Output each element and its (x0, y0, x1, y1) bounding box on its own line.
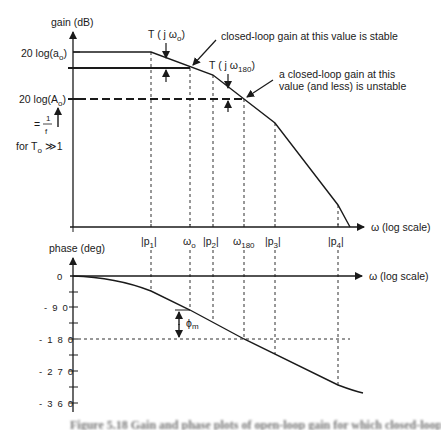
phase-tick-minus-270: - 2 7 0 (39, 366, 74, 377)
fraction-denominator: f (45, 127, 48, 136)
high-loop-gain-condition: for To ≫1 (16, 140, 63, 155)
unstable-note-line2: value (and less) is unstable (279, 80, 406, 92)
unstable-note-line1: a closed-loop gain at this (279, 68, 395, 80)
phase-tick-minus-90: - 9 0 (44, 302, 69, 313)
marker-p1: |p1| (141, 235, 157, 250)
equals-sign: = (34, 118, 40, 130)
frequency-markers: |p1| ωo |p2| ω180 |p3| |p4| (141, 235, 344, 250)
loop-gain-at-w180-label: T ( j ω180) (209, 59, 255, 74)
phase-x-axis-label: ω (log scale) (369, 270, 429, 282)
phase-margin-label: ϕm (186, 317, 199, 331)
phase-tick-minus-180: - 1 8 0 (39, 334, 74, 345)
unstable-pointer-arrow (247, 80, 273, 97)
stable-note: closed-loop gain at this value is stable (221, 30, 398, 42)
open-loop-dc-gain-label: 20 log(ao) (21, 47, 67, 62)
marker-w0: ωo (183, 235, 196, 250)
gain-y-axis-label: gain (dB) (51, 16, 94, 28)
phase-y-axis-label: phase (deg) (49, 242, 105, 254)
gain-x-axis-label: ω (log scale) (371, 221, 431, 233)
phase-plot: phase (deg) ω (log scale) 0 - 9 0 - 1 8 … (39, 242, 429, 412)
marker-p4: |p4| (328, 235, 344, 250)
marker-p3: |p3| (265, 235, 281, 250)
marker-w180: ω180 (233, 235, 255, 250)
fraction-numerator: 1 (46, 114, 51, 123)
phase-tick-minus-360: - 3 6 0 (39, 398, 74, 409)
marker-p2: |p2| (203, 235, 219, 250)
phase-tick-0: 0 (57, 271, 63, 282)
gain-plot: gain (dB) ω (log scale) 20 log(ao) 20 lo… (16, 16, 431, 233)
open-loop-phase-curve (73, 276, 363, 393)
closed-loop-gain-label: 20 log(Ao) (19, 93, 66, 108)
figure-caption: Figure 5.18 Gain and phase plots of open… (70, 418, 441, 430)
loop-gain-at-w0-label: T ( j ωo) (148, 28, 185, 43)
